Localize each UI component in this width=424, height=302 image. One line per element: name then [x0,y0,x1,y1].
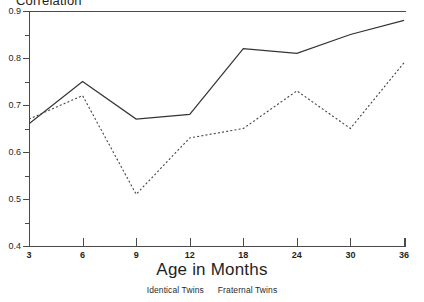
x-tick-label: 18 [228,250,258,260]
x-tick-label: 6 [68,250,98,260]
x-tick-label: 12 [175,250,205,260]
x-tick-label: 24 [282,250,312,260]
series-line [29,20,404,123]
legend-entry: Fraternal Twins [218,285,277,295]
x-tick-label: 30 [335,250,365,260]
x-axis-title: Age in Months [0,260,424,280]
chart-screenshot: Correlation 0.40.50.60.70.80.9 369121824… [0,0,424,302]
legend-entry: Identical Twins [147,285,204,295]
chart-title: Correlation [16,0,82,8]
axis-right-tick [405,238,406,247]
y-tick-label: 0.5 [0,195,21,204]
y-tick-label: 0.6 [0,148,21,157]
x-tick-label: 9 [121,250,151,260]
y-tick-label: 0.7 [0,101,21,110]
x-tick-label: 3 [14,250,44,260]
x-tick-label: 36 [389,250,419,260]
plot-area [29,11,405,246]
series-lines [29,11,405,246]
y-tick-label: 0.8 [0,54,21,63]
chart-legend: Identical TwinsFraternal Twins [0,285,424,295]
y-tick-label: 0.9 [0,7,21,16]
